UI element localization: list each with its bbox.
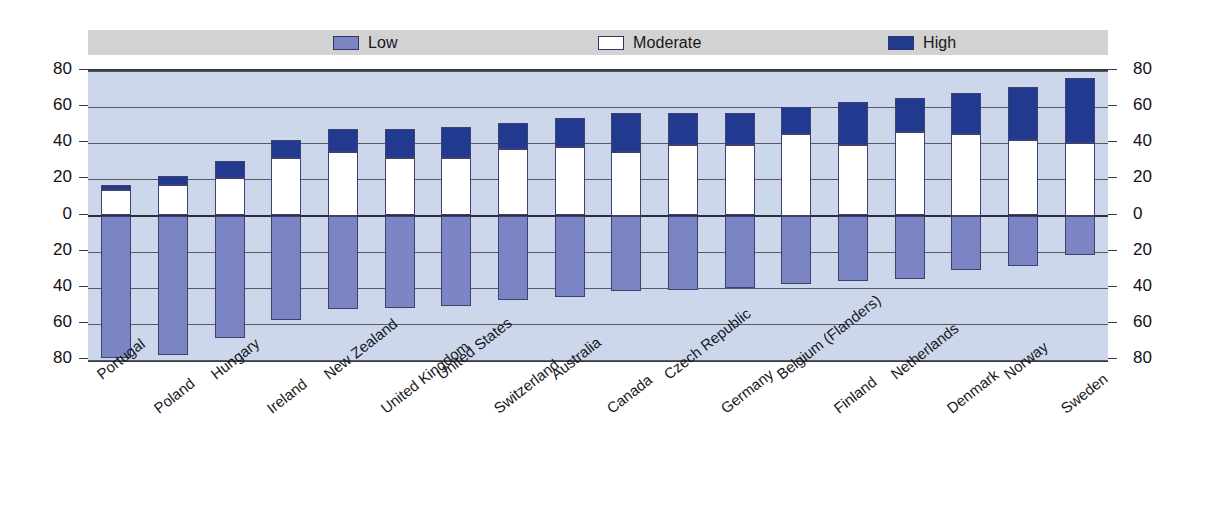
y-axis-label-right: 80 (1133, 60, 1152, 77)
y-tick-mark (79, 69, 88, 70)
y-tick-mark (1108, 105, 1117, 106)
bar-group (951, 71, 981, 360)
bar-segment-low (158, 216, 188, 355)
y-tick-mark (79, 214, 88, 215)
chart-legend: Low Moderate High (88, 30, 1108, 55)
bar-segment-moderate (441, 158, 471, 216)
y-tick-mark (79, 141, 88, 142)
bar-segment-high (215, 161, 245, 177)
legend-label-high: High (923, 34, 956, 52)
bar-segment-high (498, 123, 528, 148)
bar-segment-low (951, 216, 981, 270)
y-tick-mark (79, 358, 88, 359)
bar-segment-moderate (1008, 140, 1038, 216)
y-tick-mark (1108, 322, 1117, 323)
bar-group (555, 71, 585, 360)
category-label: Finland (831, 374, 879, 416)
bar-segment-moderate (158, 185, 188, 216)
bar-segment-low (498, 216, 528, 301)
bar-segment-low (611, 216, 641, 292)
category-label: Sweden (1058, 371, 1110, 416)
bar-segment-high (385, 129, 415, 158)
bar-segment-low (1065, 216, 1095, 256)
y-axis-label-left: 20 (53, 241, 72, 258)
bar-segment-low (1008, 216, 1038, 267)
bar-segment-high (895, 98, 925, 132)
bar-group (1065, 71, 1095, 360)
y-axis-label-right: 0 (1133, 205, 1142, 222)
y-axis-label-right: 40 (1133, 132, 1152, 149)
bar-segment-high (951, 93, 981, 135)
legend-swatch-high (888, 36, 914, 50)
y-axis-label-left: 60 (53, 313, 72, 330)
bar-group (895, 71, 925, 360)
y-tick-mark (1108, 358, 1117, 359)
y-axis-label-left: 20 (53, 168, 72, 185)
y-axis-label-left: 0 (63, 205, 72, 222)
legend-label-moderate: Moderate (633, 34, 701, 52)
y-tick-mark (1108, 286, 1117, 287)
bar-group (328, 71, 358, 360)
bar-group (781, 71, 811, 360)
bar-segment-high (725, 113, 755, 146)
bar-segment-high (1065, 78, 1095, 143)
y-axis-label-right: 60 (1133, 313, 1152, 330)
bar-segment-low (838, 216, 868, 281)
bar-segment-high (668, 113, 698, 146)
y-tick-mark (79, 322, 88, 323)
bar-segment-high (781, 107, 811, 134)
y-axis-label-right: 20 (1133, 168, 1152, 185)
bar-segment-moderate (725, 145, 755, 215)
bar-group (1008, 71, 1038, 360)
y-axis-label-right: 60 (1133, 96, 1152, 113)
bar-segment-low (101, 216, 131, 359)
bar-segment-high (101, 185, 131, 190)
y-tick-mark (79, 286, 88, 287)
bar-segment-low (215, 216, 245, 339)
y-tick-mark (79, 177, 88, 178)
bar-segment-low (271, 216, 301, 321)
y-axis-label-left: 80 (53, 349, 72, 366)
bar-segment-high (1008, 87, 1038, 139)
bar-segment-moderate (271, 158, 301, 216)
bar-segment-moderate (498, 149, 528, 216)
bar-group (271, 71, 301, 360)
bar-segment-low (725, 216, 755, 288)
legend-label-low: Low (368, 34, 398, 52)
bar-series-layer (88, 71, 1108, 360)
bar-segment-low (441, 216, 471, 306)
legend-entry-low: Low (333, 30, 398, 55)
category-label: Poland (151, 375, 197, 416)
bar-group (158, 71, 188, 360)
bar-segment-moderate (951, 134, 981, 215)
legend-swatch-low (333, 36, 359, 50)
bar-group (441, 71, 471, 360)
bar-segment-high (611, 113, 641, 153)
bar-segment-moderate (385, 158, 415, 216)
bar-segment-moderate (668, 145, 698, 215)
bar-segment-high (441, 127, 471, 158)
bar-segment-moderate (215, 178, 245, 216)
y-tick-mark (1108, 250, 1117, 251)
bar-segment-moderate (781, 134, 811, 215)
y-axis-label-right: 80 (1133, 349, 1152, 366)
bar-segment-moderate (838, 145, 868, 215)
bar-segment-high (555, 118, 585, 147)
category-label: Ireland (264, 376, 309, 416)
y-axis-label-left: 40 (53, 132, 72, 149)
bar-segment-low (555, 216, 585, 297)
y-tick-mark (1108, 69, 1117, 70)
bar-segment-low (668, 216, 698, 290)
category-label: Denmark (944, 367, 1001, 416)
legend-swatch-moderate (598, 36, 624, 50)
category-label: Germany (718, 366, 776, 416)
bar-segment-moderate (555, 147, 585, 216)
bar-group (215, 71, 245, 360)
y-tick-mark (1108, 177, 1117, 178)
bar-segment-high (158, 176, 188, 185)
bar-segment-moderate (328, 152, 358, 215)
bar-segment-moderate (895, 132, 925, 215)
legend-entry-high: High (888, 30, 956, 55)
plot-area (88, 69, 1108, 362)
bar-segment-moderate (1065, 143, 1095, 215)
